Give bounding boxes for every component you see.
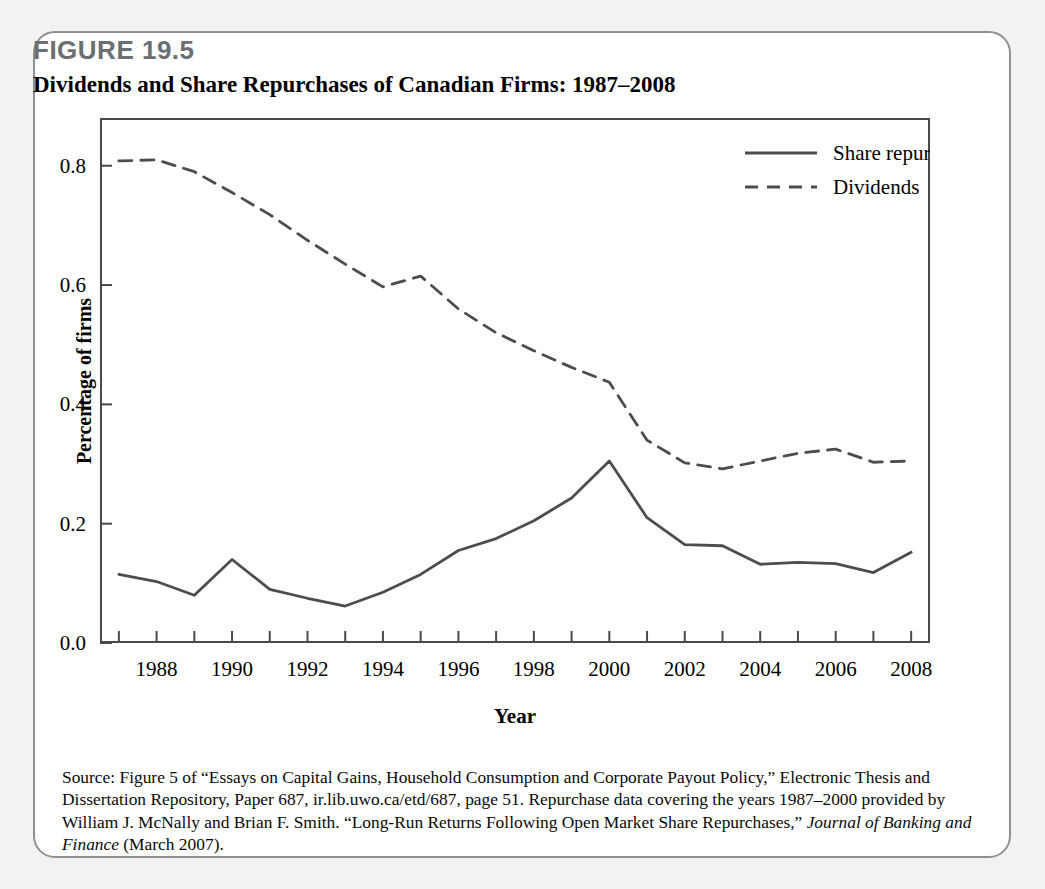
x-axis-label: Year (494, 704, 536, 729)
chart-svg: Share repurchasesDividends (100, 118, 930, 678)
x-axis-tick-label: 2002 (655, 657, 715, 682)
x-axis-tick-label: 1998 (504, 657, 564, 682)
chart-plot-area: Percentage of firms Year Share repurchas… (100, 118, 930, 643)
legend-label: Share repurchases (833, 141, 930, 165)
figure-page: FIGURE 19.5 Dividends and Share Repurcha… (0, 0, 1045, 889)
x-axis-tick-label: 1990 (202, 657, 262, 682)
legend-label: Dividends (833, 175, 919, 199)
x-axis-tick-label: 1994 (353, 657, 413, 682)
y-axis-tick-label: 0.4 (32, 392, 86, 417)
source-text-part2: (March 2007). (119, 834, 224, 854)
y-axis-tick-label: 0.0 (32, 631, 86, 656)
y-axis-tick-label: 0.2 (32, 511, 86, 536)
figure-label: FIGURE 19.5 (33, 35, 195, 66)
y-axis-tick-label: 0.6 (32, 273, 86, 298)
y-axis-tick-label: 0.8 (32, 153, 86, 178)
x-axis-tick-label: 1988 (127, 657, 187, 682)
y-axis-label: Percentage of firms (73, 297, 96, 463)
series-line-share-repurchases (119, 461, 911, 606)
x-axis-tick-label: 2000 (579, 657, 639, 682)
x-axis-tick-label: 2006 (806, 657, 866, 682)
x-axis-tick-label: 1992 (278, 657, 338, 682)
x-axis-tick-label: 2004 (730, 657, 790, 682)
source-note: Source: Figure 5 of “Essays on Capital G… (62, 766, 982, 856)
figure-title: Dividends and Share Repurchases of Canad… (33, 72, 676, 98)
x-axis-tick-label: 2008 (881, 657, 941, 682)
series-line-dividends (119, 160, 911, 469)
x-axis-tick-label: 1996 (428, 657, 488, 682)
